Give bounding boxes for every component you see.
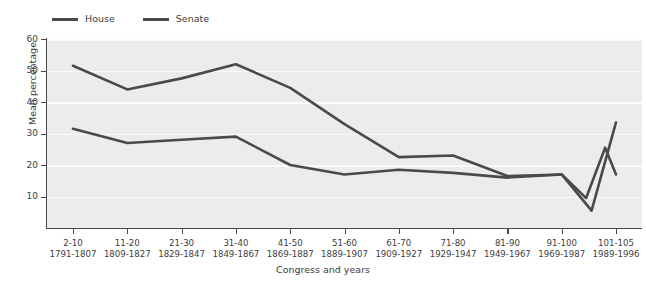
y-axis-tick-label: 50 [0, 66, 38, 75]
x-axis-tick-mark [182, 229, 183, 234]
chart-legend: House Senate [52, 10, 209, 28]
x-axis-title: Congress and years [0, 264, 646, 275]
legend-label-senate: Senate [176, 14, 209, 24]
x-axis-tick-mark [345, 229, 346, 234]
y-axis-tick-mark [41, 165, 46, 166]
y-axis-tick-label: 40 [0, 98, 38, 107]
legend-item-senate: Senate [143, 14, 209, 24]
x-axis-tick-mark [73, 229, 74, 234]
x-axis-tick-mark [453, 229, 454, 234]
x-axis-tick-mark [399, 229, 400, 234]
x-axis-tick-label: 101-1051989-1996 [576, 238, 646, 260]
x-axis-tick-mark [290, 229, 291, 234]
legend-swatch-house [52, 18, 78, 21]
legend-label-house: House [85, 14, 115, 24]
x-axis-tick-mark [616, 229, 617, 234]
gridline [47, 102, 642, 104]
y-axis-tick-mark [41, 102, 46, 103]
y-axis-line [46, 38, 47, 229]
gridline [47, 165, 642, 167]
x-axis-tick-mark [507, 229, 508, 234]
x-axis-tick-mark [236, 229, 237, 234]
y-axis-tick-mark [41, 71, 46, 72]
x-tick-congress: 101-105 [576, 238, 646, 249]
y-axis-tick-mark [41, 134, 46, 135]
gridline [47, 197, 642, 199]
y-axis-tick-label: 30 [0, 129, 38, 138]
gridline [47, 71, 642, 73]
x-axis-tick-mark [127, 229, 128, 234]
x-axis-tick-mark [562, 229, 563, 234]
y-axis-tick-label: 60 [0, 35, 38, 44]
legend-swatch-senate [143, 18, 169, 21]
y-axis-tick-label: 10 [0, 192, 38, 201]
y-axis-title: Mean percentage [27, 4, 38, 164]
gridline [47, 39, 642, 41]
plot-area [47, 39, 642, 228]
y-axis-tick-label: 20 [0, 161, 38, 170]
x-tick-years: 1989-1996 [576, 249, 646, 260]
legend-item-house: House [52, 14, 115, 24]
line-chart: House Senate Mean percentage Congress an… [0, 0, 646, 292]
y-axis-tick-mark [41, 39, 46, 40]
y-axis-tick-mark [41, 197, 46, 198]
gridline [47, 134, 642, 136]
